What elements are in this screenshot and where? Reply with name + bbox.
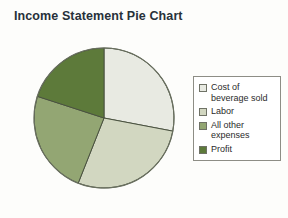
- pie-chart-figure: Income Statement Pie Chart Cost of bever…: [0, 0, 288, 218]
- chart-legend: Cost of beverage sold Labor All other ex…: [193, 76, 281, 161]
- legend-item-profit[interactable]: Profit: [199, 144, 275, 155]
- legend-label-all-other-expenses: All other expenses: [211, 120, 275, 141]
- legend-label-profit: Profit: [211, 144, 232, 155]
- legend-item-all-other-expenses[interactable]: All other expenses: [199, 120, 275, 141]
- pie-slices-group: [34, 48, 174, 188]
- legend-swatch-labor: [199, 108, 207, 116]
- legend-swatch-profit: [199, 146, 207, 154]
- legend-item-labor[interactable]: Labor: [199, 106, 275, 117]
- legend-swatch-all-other-expenses: [199, 122, 207, 130]
- legend-label-labor: Labor: [211, 106, 234, 117]
- legend-label-cost-of-beverage-sold: Cost of beverage sold: [211, 82, 275, 103]
- chart-title: Income Statement Pie Chart: [14, 9, 183, 23]
- pie-svg: [33, 47, 175, 189]
- legend-swatch-cost-of-beverage-sold: [199, 84, 207, 92]
- pie-chart-plot-area: [33, 47, 175, 189]
- pie-slice-cost-of-beverage-sold[interactable]: [104, 48, 174, 131]
- legend-item-cost-of-beverage-sold[interactable]: Cost of beverage sold: [199, 82, 275, 103]
